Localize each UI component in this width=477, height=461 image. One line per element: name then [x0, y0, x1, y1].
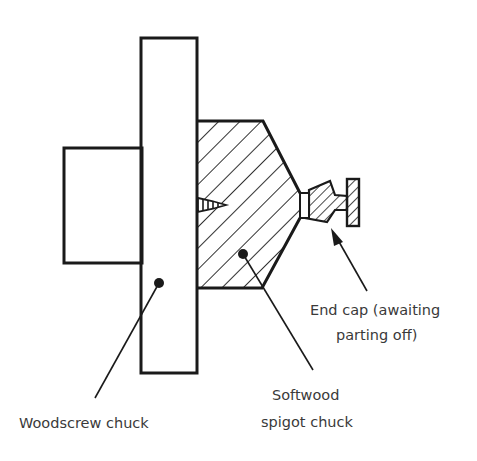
- backplate-boss: [64, 148, 142, 263]
- end-cap: [300, 179, 359, 226]
- endcap-arrow-icon: [331, 228, 367, 291]
- softwood-label-line2: spigot chuck: [261, 414, 353, 430]
- chuck-diagram: Woodscrew chuck Softwood spigot chuck En…: [0, 0, 477, 461]
- endcap-label-line2: parting off): [336, 327, 417, 343]
- woodscrew-chuck-plate: [141, 38, 197, 373]
- softwood-leader-line: [243, 254, 313, 370]
- woodscrew-chuck-label: Woodscrew chuck: [19, 415, 149, 431]
- softwood-label-line1: Softwood: [272, 387, 339, 403]
- endcap-label-line1: End cap (awaiting: [310, 302, 440, 318]
- woodscrew-leader-line: [95, 283, 159, 398]
